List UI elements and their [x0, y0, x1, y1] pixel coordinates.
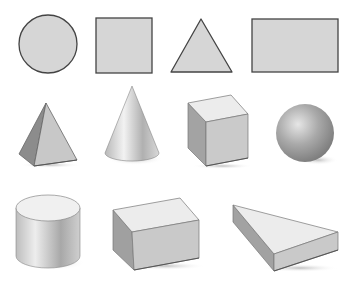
triangular-prism-shape: [233, 205, 338, 272]
circle-shape: [19, 15, 77, 73]
rectangle-shape: [252, 19, 338, 72]
cube-shape: [188, 95, 252, 169]
triangle-shape: [171, 19, 232, 72]
pyramid-shape: [19, 103, 80, 168]
shapes-figure: [0, 0, 352, 283]
square-shape: [96, 18, 152, 73]
sphere-shape: [276, 104, 338, 165]
cuboid-shape: [113, 198, 205, 270]
cone-shape: [105, 86, 163, 165]
cylinder-shape: [16, 195, 85, 270]
